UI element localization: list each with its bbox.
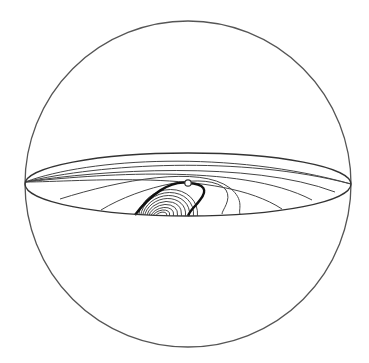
sphere-figure (0, 0, 369, 363)
flow-line (101, 181, 228, 214)
flow-line (60, 176, 240, 214)
equilibrium-point-marker (185, 180, 191, 186)
sphere-phase-portrait (0, 0, 369, 363)
